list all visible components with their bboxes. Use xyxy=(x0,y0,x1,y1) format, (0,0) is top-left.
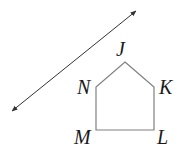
geometry-diagram: J N K M L xyxy=(0,0,181,160)
vertex-label-l: L xyxy=(156,126,168,148)
vertex-label-n: N xyxy=(76,76,92,98)
double-arrow-line xyxy=(12,11,136,111)
vertex-label-j: J xyxy=(116,38,126,60)
vertex-label-k: K xyxy=(158,76,174,98)
vertex-label-m: M xyxy=(73,126,92,148)
pentagon-jklmn xyxy=(96,62,154,130)
